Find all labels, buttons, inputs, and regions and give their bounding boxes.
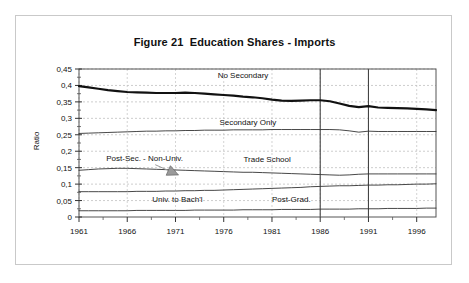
x-axis-tick-labels: 19611966197119761981198619911996 xyxy=(70,227,426,236)
y-tick-label: 0,3 xyxy=(61,114,73,123)
y-tick-label: 0,35 xyxy=(56,98,72,107)
y-tick-label: 0,05 xyxy=(56,197,72,206)
x-tick-label: 1976 xyxy=(215,227,233,236)
y-tick-label: 0 xyxy=(68,213,73,222)
annotation-label: Secondary Only xyxy=(219,118,276,127)
y-tick-label: 0,1 xyxy=(61,180,73,189)
series-line xyxy=(79,184,436,192)
series-annotations: No SecondarySecondary OnlyPost-Sec. - No… xyxy=(106,71,310,204)
annotation-label: Univ. to Bach'l xyxy=(152,195,203,204)
x-axis-ticks xyxy=(79,217,417,222)
x-tick-label: 1981 xyxy=(263,227,281,236)
y-tick-label: 0,4 xyxy=(61,81,73,90)
education-shares-line-chart: 0,450,40,350,30,250,20,150,10,050 196119… xyxy=(16,16,453,266)
horizontal-gridlines xyxy=(79,69,436,201)
data-series-lines xyxy=(79,86,436,211)
annotation-label: No Secondary xyxy=(218,71,269,80)
series-line xyxy=(79,168,436,175)
arrow-head xyxy=(166,166,178,176)
x-tick-label: 1971 xyxy=(167,227,185,236)
figure-frame: Figure 21 Education Shares - Imports Rat… xyxy=(15,15,452,265)
y-tick-label: 0,25 xyxy=(56,131,72,140)
annotation-label: Post-Grad. xyxy=(272,195,311,204)
x-tick-label: 1961 xyxy=(70,227,88,236)
y-tick-label: 0,2 xyxy=(61,147,73,156)
series-line xyxy=(79,86,436,110)
x-tick-label: 1986 xyxy=(311,227,329,236)
y-axis-tick-labels: 0,450,40,350,30,250,20,150,10,050 xyxy=(56,65,72,222)
x-tick-label: 1996 xyxy=(408,227,426,236)
annotation-label: Trade School xyxy=(244,155,292,164)
x-tick-label: 1966 xyxy=(118,227,136,236)
y-tick-label: 0,45 xyxy=(56,65,72,74)
y-tick-label: 0,15 xyxy=(56,164,72,173)
reference-lines xyxy=(320,69,368,217)
series-line xyxy=(79,208,436,211)
x-tick-label: 1991 xyxy=(360,227,378,236)
series-line xyxy=(79,130,436,134)
annotation-label: Post-Sec. - Non-Univ. xyxy=(106,154,183,163)
